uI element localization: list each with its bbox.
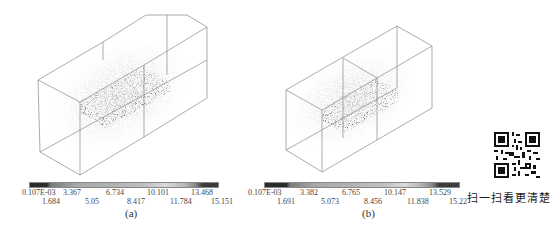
colorbar-a-tick: 0.107E-03 <box>22 189 56 197</box>
colorbar-a-tick: 11.784 <box>170 198 192 206</box>
colorbar-a-tick: 1.684 <box>42 198 60 206</box>
colorbar-b-tick: 5.073 <box>321 198 339 206</box>
qr-code-icon[interactable] <box>494 132 540 178</box>
qr-caption: 扫一扫看更清楚 <box>467 189 551 205</box>
colorbar-b-tick: 3.382 <box>300 189 318 197</box>
colorbar-a-tick: 6.734 <box>106 189 124 197</box>
colorbar-b-tick: 0.107E-03 <box>248 189 282 197</box>
panel-b-plot <box>272 26 432 172</box>
colorbar-b-tick: 13.529 <box>429 189 451 197</box>
colorbar-a-tick: 15.151 <box>211 198 233 206</box>
colorbar-b-tick: 11.838 <box>407 198 429 206</box>
colorbar-b-tick: 6.765 <box>342 189 360 197</box>
colorbar-a-tick: 5.05 <box>85 198 99 206</box>
colorbar-a-tick: 3.367 <box>63 189 81 197</box>
colorbar-b-tick: 10.147 <box>384 189 406 197</box>
colorbar-a-tick: 10.101 <box>147 189 169 197</box>
panel-b-caption: (b) <box>362 208 375 219</box>
colorbar-b-tick: 1.691 <box>277 198 295 206</box>
panel-a-plot <box>31 15 209 175</box>
colorbar-a-tick: 8.417 <box>127 198 145 206</box>
colorbar-b-tick: 15.22 <box>449 198 467 206</box>
colorbar-a-tick: 13.468 <box>191 189 213 197</box>
colorbar-b-tick: 8.456 <box>364 198 382 206</box>
panel-a-caption: (a) <box>125 208 137 219</box>
